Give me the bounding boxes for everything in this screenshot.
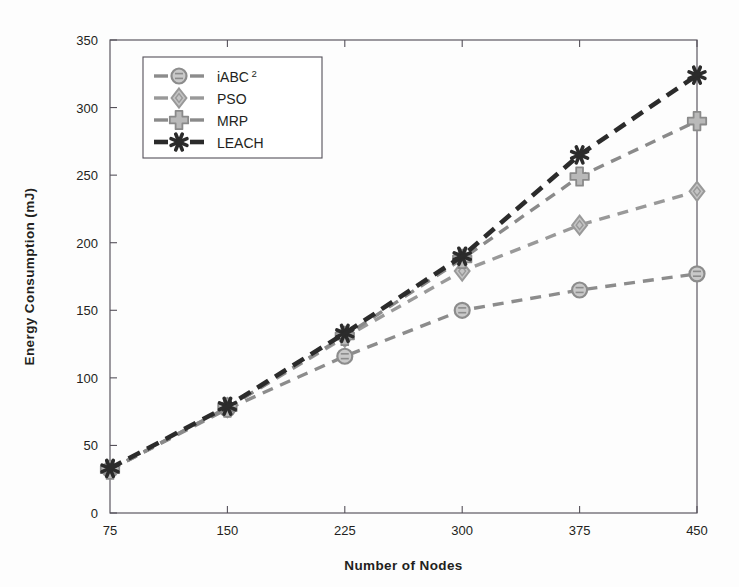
marker-circle <box>172 69 187 84</box>
y-axis-title: Energy Consumption (mJ) <box>22 188 37 366</box>
y-tick-label: 100 <box>76 371 98 386</box>
y-tick-label: 250 <box>76 168 98 183</box>
circle-marker <box>690 266 705 281</box>
y-tick-label: 50 <box>84 438 98 453</box>
marker-circle <box>337 349 352 364</box>
marker-circle <box>690 266 705 281</box>
series-line <box>110 274 697 470</box>
y-tick-label: 200 <box>76 236 98 251</box>
legend-label: iABC <box>217 69 249 85</box>
legend-label-superscript: 2 <box>251 68 256 79</box>
y-tick-label: 350 <box>76 33 98 48</box>
energy-consumption-line-chart: 05010015020025030035075150225300375450Nu… <box>0 0 739 587</box>
legend: iABC2PSOMRPLEACH <box>143 57 322 158</box>
x-tick-label: 300 <box>451 523 473 538</box>
plus-marker <box>688 112 706 130</box>
x-tick-label: 75 <box>103 523 117 538</box>
marker-plus <box>688 112 706 130</box>
y-tick-label: 300 <box>76 101 98 116</box>
marker-diamond <box>572 216 587 235</box>
legend-label: LEACH <box>217 135 264 151</box>
x-tick-label: 450 <box>686 523 708 538</box>
marker-circle <box>572 283 587 298</box>
series-iabc <box>103 266 705 477</box>
figure-canvas: 05010015020025030035075150225300375450Nu… <box>0 0 739 587</box>
circle-marker <box>455 303 470 318</box>
x-tick-label: 375 <box>569 523 591 538</box>
x-tick-label: 150 <box>217 523 239 538</box>
y-axis: 050100150200250300350 <box>76 33 117 521</box>
x-tick-label: 225 <box>334 523 356 538</box>
y-tick-label: 150 <box>76 303 98 318</box>
legend-label: PSO <box>217 91 247 107</box>
series-pso <box>103 182 705 479</box>
legend-label: MRP <box>217 113 248 129</box>
circle-marker <box>172 69 187 84</box>
plus-marker <box>570 167 588 185</box>
series-line <box>110 191 697 469</box>
x-axis-title: Number of Nodes <box>344 558 463 573</box>
diamond-marker <box>572 216 587 235</box>
diamond-marker <box>690 182 705 201</box>
marker-circle <box>455 303 470 318</box>
y-tick-label: 0 <box>91 506 98 521</box>
circle-marker <box>572 283 587 298</box>
marker-diamond <box>690 182 705 201</box>
marker-plus <box>570 167 588 185</box>
circle-marker <box>337 349 352 364</box>
